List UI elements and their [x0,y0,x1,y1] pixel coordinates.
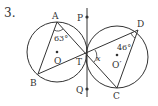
label-p: P [77,13,83,23]
label-o: O [54,56,61,66]
angle-d-value: 46° [117,43,131,52]
angle-arc-d [131,33,135,38]
center-o [56,51,59,54]
angle-a-value: 63° [54,34,68,43]
label-c: C [113,91,120,101]
point-q [85,87,88,90]
label-x: x [96,54,101,63]
label-t: T [76,57,82,67]
label-b: B [30,78,37,88]
label-q: Q [76,85,83,95]
geometry-figure: 3. A B C D P Q T O O′ x 63° 46° [0,0,158,106]
problem-number: 3. [4,6,15,20]
segment-dc [117,30,138,88]
label-a: A [51,11,59,21]
label-d: D [137,19,144,29]
angle-arc-a [54,29,63,31]
point-p [85,15,88,18]
center-o-prime [116,54,119,57]
label-o-prime: O′ [112,60,121,70]
figure-canvas: 3. A B C D P Q T O O′ x 63° 46° [0,0,158,106]
